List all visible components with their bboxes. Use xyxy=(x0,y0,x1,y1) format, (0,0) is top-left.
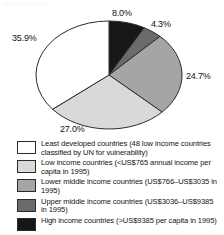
legend-swatch-least-developed xyxy=(17,141,36,154)
legend-label-low-income: Low income countries (<US$765 annual inc… xyxy=(41,159,219,176)
legend-label-lower-middle-income: Lower middle income countries (US$766–US… xyxy=(41,178,219,195)
pie-slice-group xyxy=(36,21,182,129)
pie-chart: 8.0% 4.3% 24.7% 27.0% 35.9% xyxy=(0,0,224,140)
legend-swatch-lower-middle-income xyxy=(17,179,36,192)
legend-item-lower-middle-income[interactable]: Lower middle income countries (US$766–US… xyxy=(0,178,224,195)
pie-label-lower-middle-income: 24.7% xyxy=(186,71,211,81)
legend-swatch-high-income xyxy=(17,218,36,231)
legend-label-high-income: High income countries (>US$9385 per capi… xyxy=(41,217,217,226)
legend-swatch-low-income xyxy=(17,160,36,173)
legend-item-high-income[interactable]: High income countries (>US$9385 per capi… xyxy=(0,217,224,231)
legend-swatch-upper-middle-income xyxy=(17,199,36,212)
pie-label-high-income: 8.0% xyxy=(112,8,132,18)
legend-item-low-income[interactable]: Low income countries (<US$765 annual inc… xyxy=(0,159,224,176)
legend-label-least-developed: Least developed countries (48 low income… xyxy=(41,140,219,157)
legend-item-upper-middle-income[interactable]: Upper middle income countries (US$3036–U… xyxy=(0,198,224,215)
legend-label-upper-middle-income: Upper middle income countries (US$3036–U… xyxy=(41,198,219,215)
legend-item-least-developed[interactable]: Least developed countries (48 low income… xyxy=(0,140,224,157)
pie-label-low-income: 27.0% xyxy=(60,124,85,134)
pie-chart-svg xyxy=(0,0,224,140)
legend: Least developed countries (48 low income… xyxy=(0,140,224,233)
pie-label-least-developed: 35.9% xyxy=(12,33,37,43)
pie-label-upper-middle-income: 4.3% xyxy=(151,19,171,29)
